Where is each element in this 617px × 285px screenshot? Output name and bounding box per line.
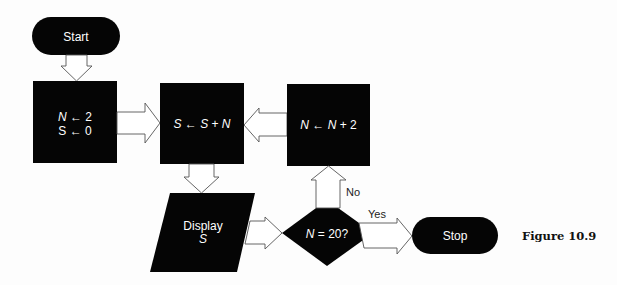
display-line1: Display (183, 219, 222, 233)
stop-node: Stop (412, 217, 498, 254)
arrow-init-to-accumulate (117, 103, 160, 143)
increment-label: N ← N + 2 (300, 118, 357, 132)
arrow-decision-to-increment (311, 166, 346, 208)
figure-caption: Figure 10.9 (522, 229, 596, 243)
arrow-start-to-init (61, 55, 92, 81)
arrow-increment-to-accumulate (244, 108, 287, 142)
increment-node: N ← N + 2 (287, 84, 370, 166)
edge-label-no: No (346, 186, 360, 198)
init-node: N ← 2 S ← 0 (33, 81, 117, 163)
start-node: Start (32, 17, 120, 55)
arrow-display-to-decision (245, 217, 282, 249)
display-node: Display S (150, 193, 255, 272)
display-line2: S (199, 232, 207, 246)
init-line1: N ← 2 (58, 110, 92, 124)
init-line2: S ← 0 (58, 124, 92, 138)
decision-label: N = 20? (306, 227, 349, 241)
stop-label: Stop (443, 229, 468, 243)
accumulate-node: S ← S + N (160, 83, 244, 164)
decision-node: N = 20? (282, 200, 373, 266)
accumulate-label: S ← S + N (173, 117, 230, 131)
arrow-accumulate-to-display (184, 164, 219, 193)
arrow-decision-to-stop (359, 218, 412, 254)
start-label: Start (63, 30, 89, 44)
edge-label-yes: Yes (368, 208, 386, 220)
flowchart: Start N ← 2 S ← 0 S ← S + N N ← N + 2 Di… (0, 0, 617, 285)
